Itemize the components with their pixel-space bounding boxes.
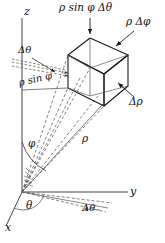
- dtheta-lower-indicator: [22, 192, 112, 212]
- box-right-face: [104, 55, 128, 106]
- label-dtheta-upper: Δθ: [18, 45, 31, 55]
- label-dtheta-lower: Δθ: [82, 203, 95, 213]
- label-theta: θ: [26, 200, 32, 211]
- label-drho: Δρ: [129, 96, 143, 107]
- volume-element-box: [68, 38, 128, 106]
- box-hidden-edges: [68, 38, 128, 96]
- label-rho: ρ: [82, 133, 88, 144]
- axis-label-x: x: [5, 222, 11, 233]
- segment-rho-sin-phi: [22, 88, 68, 90]
- label-rho-sin-phi-dtheta: ρ sin φ Δθ: [59, 2, 112, 13]
- label-rho-dphi: ρ Δφ: [126, 16, 150, 27]
- label-phi: φ: [28, 138, 35, 149]
- axis-label-z: z: [24, 6, 30, 17]
- figure-canvas: z y x ρ sin φ Δθ ρ Δφ Δρ Δθ ρ sin φ φ ρ …: [0, 0, 165, 243]
- axis-label-y: y: [130, 186, 136, 197]
- leader-rho-dphi: [116, 31, 134, 46]
